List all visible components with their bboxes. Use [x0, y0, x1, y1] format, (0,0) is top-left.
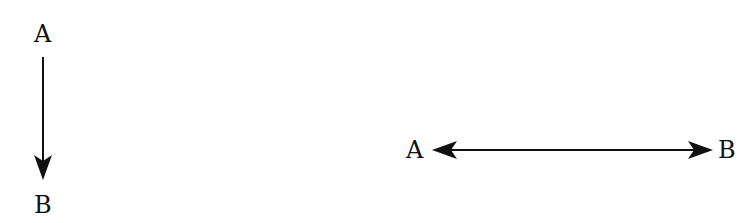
- arrows-layer: [0, 0, 743, 223]
- down-arrow-icon: [34, 57, 52, 180]
- bidirectional-arrow-icon: [432, 141, 713, 159]
